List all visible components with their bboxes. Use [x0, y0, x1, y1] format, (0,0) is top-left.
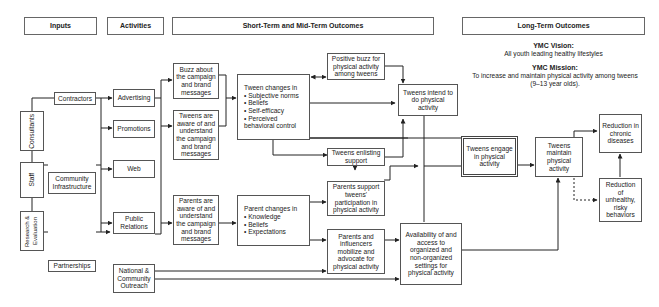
mission-statement: YMC Mission: To increase and maintain ph…: [455, 64, 655, 88]
vision-statement: YMC Vision: All youth leading healthy li…: [462, 42, 645, 58]
outcome-reduction-unhealthy: Reduction of unhealthy, risky behaviors: [599, 178, 642, 222]
input-community-infrastructure: Community Infrastructure: [48, 172, 96, 194]
outcome-tweens-aware: Tweens are aware of and understand the c…: [173, 110, 219, 160]
parent-changes-title: Parent changes in: [244, 205, 297, 213]
input-research-evaluation: Research & Evaluation: [20, 211, 44, 251]
activity-advertising: Advertising: [113, 89, 155, 107]
mission-title: YMC Mission:: [532, 64, 578, 71]
outcome-parents-support: Parents support tweens' participation in…: [327, 181, 385, 216]
mission-text-2: (9–13 year olds).: [455, 80, 655, 88]
outcome-tweens-maintain: Tweens maintain physical activity: [535, 137, 583, 177]
outcome-tweens-engage: Tweens engage in physical activity: [461, 136, 518, 177]
outcome-positive-buzz: Positive buzz for physical activity amon…: [327, 53, 385, 80]
parent-change-item: Knowledge: [244, 213, 297, 221]
input-staff: Staff: [20, 162, 44, 198]
research-label: Research & Evaluation: [24, 213, 39, 249]
outcome-tweens-enlisting: Tweens enlisting support: [327, 148, 385, 166]
header-short-mid-outcomes: Short-Term and Mid-Term Outcomes: [172, 17, 434, 35]
header-activities: Activities: [107, 17, 164, 35]
tween-change-item: Perceived behavioral control: [244, 115, 307, 130]
mission-text: To increase and maintain physical activi…: [455, 72, 655, 80]
outcome-parents-influencers: Parents and influencers mobilize and adv…: [327, 229, 385, 274]
activity-web: Web: [113, 160, 155, 178]
header-inputs: Inputs: [24, 17, 97, 35]
tween-change-item: Subjective norms: [244, 92, 307, 100]
staff-label: Staff: [28, 173, 36, 186]
outcome-reduction-chronic: Reduction in chronic diseases: [599, 114, 642, 153]
outcome-parents-aware: Parents are aware of and understand the …: [173, 195, 219, 245]
header-long-term-outcomes: Long-Term Outcomes: [462, 17, 645, 35]
outcome-availability-access: Availability of and access to organized …: [400, 223, 462, 285]
outcome-parent-changes: Parent changes in Knowledge Beliefs Expe…: [237, 195, 310, 246]
activity-national-community-outreach: National & Community Outreach: [113, 264, 155, 293]
input-consultants: Consultants: [20, 111, 44, 151]
tween-change-item: Self-efficacy: [244, 107, 307, 115]
tween-changes-title: Tween changes in: [244, 84, 307, 92]
input-contractors: Contractors: [54, 92, 96, 105]
outcome-tween-changes: Tween changes in Subjective norms Belief…: [237, 74, 310, 140]
input-partnerships: Partnerships: [48, 260, 96, 272]
parent-change-item: Expectations: [244, 228, 297, 236]
activity-public-relations: Public Relations: [113, 212, 155, 234]
outcome-buzz-campaign: Buzz about the campaign and brand messag…: [173, 63, 219, 99]
outcome-tweens-intend: Tweens intend to do physical activity: [398, 84, 458, 116]
tween-change-item: Beliefs: [244, 99, 307, 107]
vision-title: YMC Vision:: [533, 42, 574, 49]
activity-promotions: Promotions: [113, 120, 155, 138]
parent-change-item: Beliefs: [244, 221, 297, 229]
vision-text: All youth leading healthy lifestyles: [462, 50, 645, 58]
consultants-label: Consultants: [28, 114, 36, 149]
